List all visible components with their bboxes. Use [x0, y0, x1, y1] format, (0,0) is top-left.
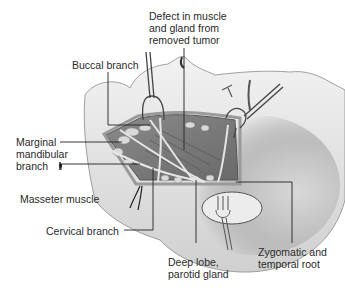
label-cervical-branch: Cervical branch [46, 225, 119, 237]
label-deep-lobe: Deep lobe, parotid gland [168, 256, 229, 280]
label-marginal-mandibular-branch: Marginal mandibular branch [16, 136, 68, 172]
label-buccal-branch: Buccal branch [72, 59, 139, 71]
label-defect: Defect in muscle and gland from removed … [149, 10, 227, 46]
label-zygomatic-temporal-root: Zygomatic and temporal root [258, 246, 327, 270]
label-masseter-muscle: Masseter muscle [20, 193, 99, 205]
